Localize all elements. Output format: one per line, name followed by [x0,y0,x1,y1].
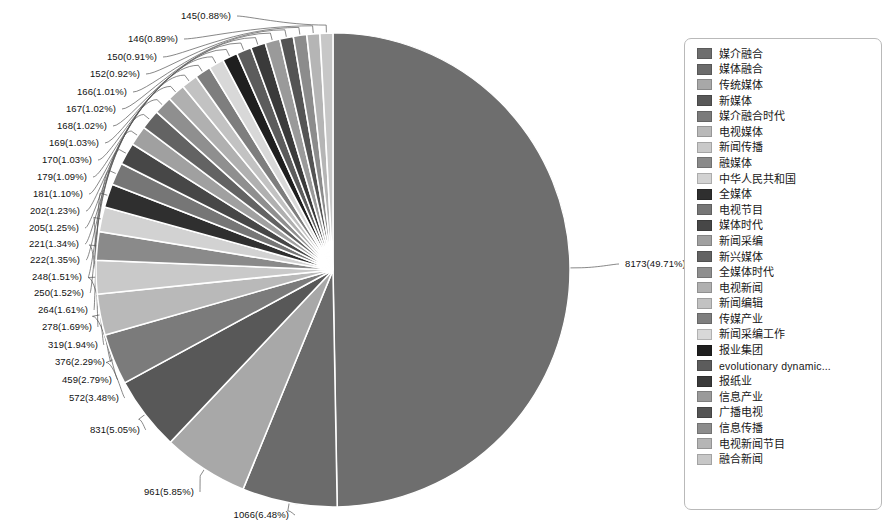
legend-item-label: 报纸业 [719,375,752,387]
pie-slice[interactable] [333,33,570,507]
legend-item-label: 媒体时代 [719,219,763,231]
legend-item[interactable]: 融媒体 [697,155,875,171]
legend-color-swatch [697,204,712,215]
legend-item[interactable]: 新闻编辑 [697,296,875,312]
legend-color-swatch [697,189,712,200]
pie-slices-group [96,33,570,507]
legend-item[interactable]: 传统媒体 [697,77,875,93]
legend-item[interactable]: 电视新闻节目 [697,436,875,452]
legend-color-swatch [697,329,712,340]
pie-slice-label: 278(1.69%) [0,321,92,332]
pie-slice-label: 150(0.91%) [0,51,157,62]
pie-slice-label: 205(1.25%) [0,222,79,233]
legend-color-swatch [697,282,712,293]
legend-item[interactable]: 广播电视 [697,405,875,421]
legend-item[interactable]: 传媒产业 [697,311,875,327]
legend-color-swatch [697,298,712,309]
legend-color-swatch [697,454,712,465]
pie-slice-label: 146(0.89%) [0,33,178,44]
legend-items-list: 媒介融合媒体融合传统媒体新媒体媒介融合时代电视媒体新闻传播融媒体中华人民共和国全… [697,46,875,467]
legend-item[interactable]: 媒介融合时代 [697,108,875,124]
legend-item[interactable]: 新闻采编 [697,233,875,249]
legend-item-label: 电视新闻 [719,282,763,294]
pie-slice-label: 250(1.52%) [0,287,84,298]
pie-chart-area: 8173(49.71%)1066(6.48%)961(5.85%)831(5.0… [0,0,684,529]
legend-item[interactable]: 中华人民共和国 [697,171,875,187]
legend-color-swatch [697,376,712,387]
legend-item[interactable]: 新媒体 [697,93,875,109]
legend-color-swatch [697,407,712,418]
legend-item-label: 报业集团 [719,344,763,356]
legend-color-swatch [697,235,712,246]
legend-item-label: 融媒体 [719,157,752,169]
pie-slice-label: 1066(6.48%) [0,509,289,520]
legend-item[interactable]: evolutionary dynamic... [697,358,875,374]
legend-color-swatch [697,423,712,434]
legend-item-label: 媒介融合 [719,48,763,60]
legend-item-label: 传媒产业 [719,313,763,325]
legend-color-swatch [697,391,712,402]
legend-color-swatch [697,157,712,168]
legend-item-label: 新闻采编 [719,235,763,247]
legend-item-label: 全媒体 [719,188,752,200]
legend-item-label: 新闻编辑 [719,297,763,309]
legend-item-label: 广播电视 [719,406,763,418]
legend-item-label: 信息传播 [719,422,763,434]
legend-item[interactable]: 媒体时代 [697,218,875,234]
legend-color-swatch [697,360,712,371]
chart-legend: 媒介融合媒体融合传统媒体新媒体媒介融合时代电视媒体新闻传播融媒体中华人民共和国全… [684,38,882,510]
legend-item[interactable]: 信息传播 [697,420,875,436]
legend-item[interactable]: 媒体融合 [697,62,875,78]
legend-color-swatch [697,111,712,122]
legend-item-label: 传统媒体 [719,79,763,91]
legend-item[interactable]: 信息产业 [697,389,875,405]
legend-color-swatch [697,267,712,278]
legend-color-swatch [697,220,712,231]
legend-color-swatch [697,313,712,324]
pie-slice-label: 202(1.23%) [0,205,80,216]
pie-slice-label: 8173(49.71%) [625,258,686,269]
pie-slice-label: 168(1.02%) [0,120,107,131]
legend-item-label: 电视节目 [719,204,763,216]
legend-item[interactable]: 全媒体时代 [697,264,875,280]
legend-item[interactable]: 融合新闻 [697,451,875,467]
label-leader-line [200,469,205,492]
pie-slice-label: 145(0.88%) [0,10,231,21]
pie-slice-label: 572(3.48%) [0,392,119,403]
pie-slice-label: 376(2.29%) [0,356,105,367]
legend-item-label: 融合新闻 [719,453,763,465]
pie-slice-label: 264(1.61%) [0,304,88,315]
legend-item[interactable]: 新闻传播 [697,140,875,156]
legend-item-label: 全媒体时代 [719,266,774,278]
legend-item[interactable]: 新闻采编工作 [697,327,875,343]
legend-item-label: 新兴媒体 [719,251,763,263]
legend-item-label: 信息产业 [719,391,763,403]
legend-item-label: 电视媒体 [719,126,763,138]
pie-chart-svg [0,0,684,529]
pie-slice-label: 170(1.03%) [0,154,92,165]
legend-item-label: 媒体融合 [719,63,763,75]
legend-item-label: 新闻采编工作 [719,328,785,340]
legend-color-swatch [697,438,712,449]
legend-color-swatch [697,173,712,184]
legend-item[interactable]: 报纸业 [697,373,875,389]
pie-slice-label: 221(1.34%) [0,238,79,249]
legend-item[interactable]: 电视媒体 [697,124,875,140]
pie-slice-label: 181(1.10%) [0,188,83,199]
pie-slice-label: 167(1.02%) [0,103,116,114]
legend-item-label: 电视新闻节目 [719,438,785,450]
legend-item[interactable]: 电视新闻 [697,280,875,296]
legend-item-label: 中华人民共和国 [719,173,796,185]
legend-item-label: evolutionary dynamic... [719,360,831,372]
pie-slice-label: 248(1.51%) [0,271,82,282]
legend-color-swatch [697,95,712,106]
legend-color-swatch [697,345,712,356]
pie-slice-label: 831(5.05%) [0,424,140,435]
legend-item[interactable]: 报业集团 [697,342,875,358]
legend-color-swatch [697,126,712,137]
legend-item[interactable]: 新兴媒体 [697,249,875,265]
legend-item[interactable]: 全媒体 [697,186,875,202]
legend-color-swatch [697,79,712,90]
legend-item[interactable]: 电视节目 [697,202,875,218]
legend-item[interactable]: 媒介融合 [697,46,875,62]
